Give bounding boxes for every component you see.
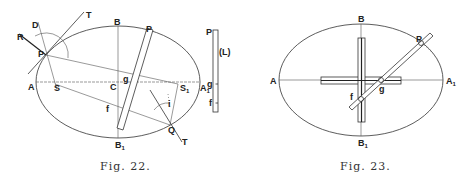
label-s1: S1 [180, 83, 190, 94]
cross-slot [321, 38, 401, 122]
label-a: A [28, 82, 35, 92]
label-a1-fig23: A1 [446, 76, 457, 87]
strip-label-g: g [207, 79, 213, 89]
label-b1: B1 [115, 140, 126, 151]
focal-line-s1-q [170, 84, 178, 125]
label-q: Q [168, 125, 175, 135]
label-t-top: T [86, 10, 92, 20]
trammel-strip [213, 30, 218, 112]
label-f: f [106, 104, 110, 114]
label-f-fig23: f [350, 92, 354, 102]
strip-label-p: P [206, 27, 212, 37]
label-d: D [32, 20, 39, 30]
label-r: R [17, 32, 24, 42]
label-g: g [123, 74, 129, 84]
label-b: B [114, 17, 121, 27]
strip-label-l: (L) [219, 47, 231, 57]
label-p: P [38, 49, 44, 59]
label-i: i [168, 99, 171, 109]
caption-fig22: Fig. 22. [100, 160, 151, 173]
label-s: S [54, 83, 60, 93]
label-g-fig23: g [379, 84, 385, 94]
label-b1-fig23: B1 [358, 138, 369, 149]
label-c: C [110, 82, 117, 92]
tangent-line-q [150, 90, 182, 142]
dotted-arc [424, 45, 442, 72]
figure-23: B P A A1 g f B1 Fig. 23. [270, 14, 457, 173]
strip-label-f: f [209, 98, 213, 108]
label-b-fig23: B [358, 14, 365, 24]
caption-fig23: Fig. 23. [340, 160, 391, 173]
label-t-bottom: T [182, 137, 188, 147]
label-a-fig23: A [270, 76, 277, 86]
label-p-fig23: P [416, 34, 422, 44]
diagram-canvas: D T R P B P A S C g S1 A1 f i Q T B1 P (… [0, 0, 468, 177]
focal-line-p-s1 [46, 55, 178, 84]
figure-22: D T R P B P A S C g S1 A1 f i Q T B1 P (… [17, 10, 231, 173]
label-p-rod: P [146, 24, 152, 34]
